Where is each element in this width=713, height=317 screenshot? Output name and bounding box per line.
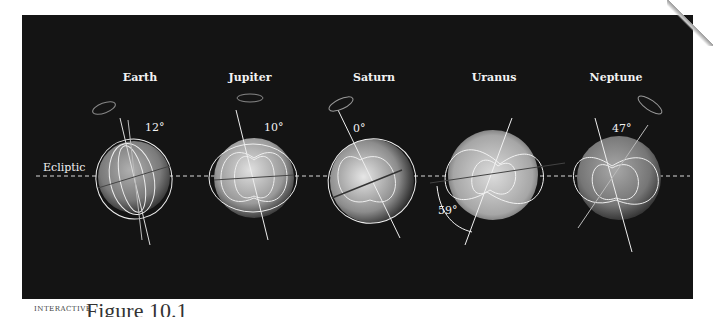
ecliptic-label: Ecliptic xyxy=(43,161,85,174)
figure-caption: Figure 10.1 xyxy=(86,300,187,317)
planet-label-uranus: Uranus xyxy=(472,71,517,84)
planet-label-neptune: Neptune xyxy=(590,71,643,84)
planet-saturn xyxy=(316,94,427,238)
planet-label-earth: Earth xyxy=(123,71,157,84)
tilt-angle-saturn: 0° xyxy=(353,122,366,135)
planet-uranus xyxy=(430,118,565,245)
interactive-logo: INTERACTIVE xyxy=(34,305,91,313)
planet-neptune xyxy=(573,93,664,252)
planet-diagram xyxy=(0,0,713,317)
planet-label-jupiter: Jupiter xyxy=(229,71,272,84)
tilt-angle-uranus: 59° xyxy=(438,204,458,217)
tilt-angle-neptune: 47° xyxy=(612,122,632,135)
planet-earth xyxy=(89,99,180,245)
planet-label-saturn: Saturn xyxy=(353,71,395,84)
planet-jupiter xyxy=(209,94,297,240)
tilt-angle-earth: 12° xyxy=(145,121,165,134)
tilt-angle-jupiter: 10° xyxy=(264,121,284,134)
